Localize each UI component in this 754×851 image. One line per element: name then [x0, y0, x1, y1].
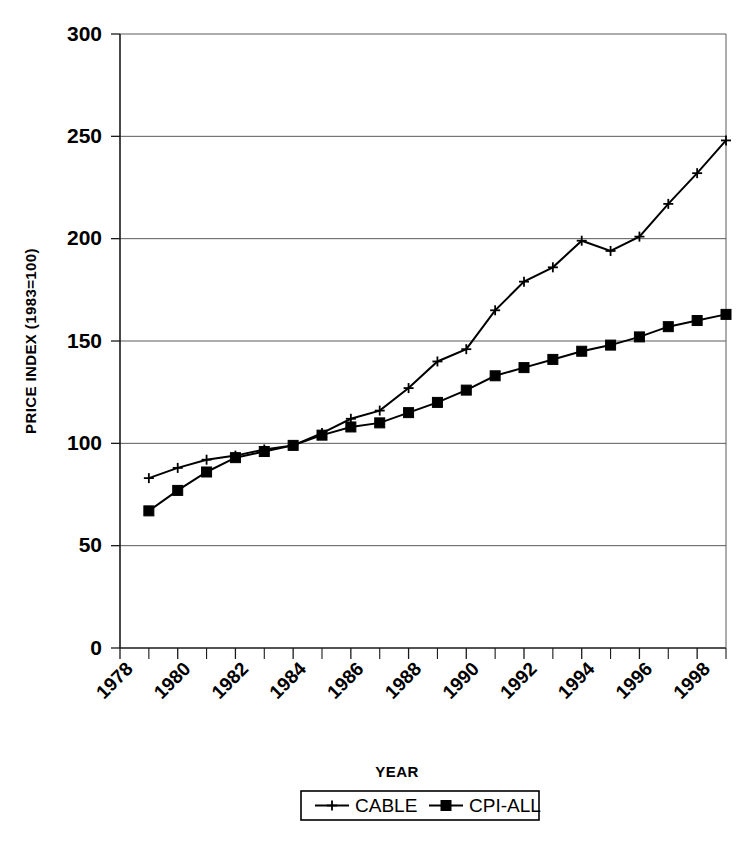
data-point-marker — [548, 354, 558, 364]
y-tick-label-150: 150 — [67, 329, 102, 352]
x-axis-title: YEAR — [375, 763, 418, 780]
data-point-marker — [692, 316, 702, 326]
data-point-marker — [404, 408, 414, 418]
data-point-marker — [230, 453, 240, 463]
y-tick-label-50: 50 — [79, 533, 102, 556]
legend-label-0: CABLE — [355, 795, 417, 816]
data-point-marker — [519, 363, 529, 373]
legend-label-1: CPI-ALL — [469, 795, 541, 816]
data-point-marker — [461, 385, 471, 395]
y-tick-label-200: 200 — [67, 226, 102, 249]
data-point-marker — [202, 467, 212, 477]
data-point-marker — [634, 332, 644, 342]
data-point-marker — [288, 440, 298, 450]
data-point-marker — [317, 430, 327, 440]
data-point-marker — [346, 422, 356, 432]
y-axis-title: PRICE INDEX (1983=100) — [22, 248, 39, 434]
data-point-marker — [173, 485, 183, 495]
y-tick-label-300: 300 — [67, 22, 102, 45]
square-marker-icon — [441, 801, 451, 811]
data-point-marker — [577, 346, 587, 356]
data-point-marker — [259, 447, 269, 457]
chart-legend: CABLECPI-ALL — [301, 791, 541, 820]
data-point-marker — [721, 309, 731, 319]
y-tick-label-0: 0 — [90, 636, 102, 659]
data-point-marker — [432, 397, 442, 407]
data-point-marker — [375, 418, 385, 428]
y-tick-label-250: 250 — [67, 124, 102, 147]
data-point-marker — [606, 340, 616, 350]
chart-container: 050100150200250300 197819801982198419861… — [0, 0, 754, 851]
y-tick-label-100: 100 — [67, 431, 102, 454]
data-point-marker — [490, 371, 500, 381]
data-point-marker — [144, 506, 154, 516]
price-index-line-chart: 050100150200250300 197819801982198419861… — [0, 0, 754, 851]
data-point-marker — [663, 322, 673, 332]
